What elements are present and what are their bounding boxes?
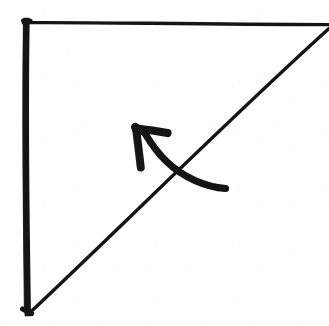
fold-direction-arrow-head-lower-barb [136,128,141,168]
fold-diagram-canvas [0,0,329,326]
left-edge [26,22,28,313]
fold-direction-arrow-head-upper-barb [136,128,168,133]
top-edge [24,23,329,25]
fold-diagram-svg [0,0,329,326]
